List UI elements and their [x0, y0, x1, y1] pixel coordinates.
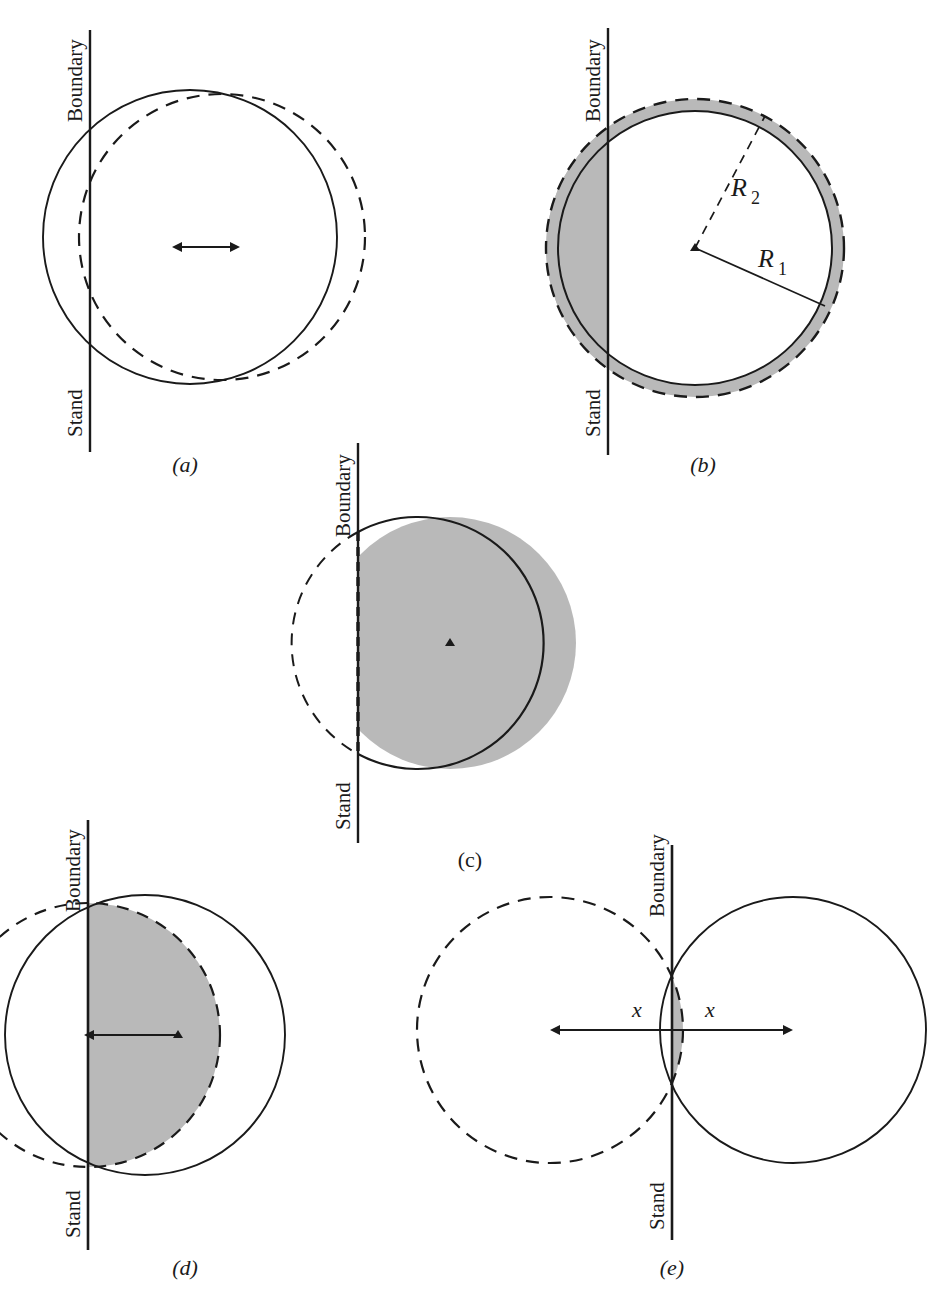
boundary-label-b: Boundary	[581, 39, 605, 122]
panel-caption-e: (e)	[592, 1255, 752, 1281]
stand-label-e: Stand	[645, 1182, 669, 1230]
stand-label-a: Stand	[63, 389, 87, 437]
arrowhead-left-icon	[172, 242, 182, 252]
boundary-label-d: Boundary	[61, 829, 85, 912]
radius-r2-label-b: R	[730, 173, 747, 202]
panel-e-svg: x x Boundary Stand	[400, 845, 947, 1308]
stand-label-d: Stand	[61, 1190, 85, 1238]
distance-label-right-e: x	[704, 997, 715, 1022]
radius-r1-subscript-b: 1	[778, 259, 787, 279]
figure-root: Boundary Stand (a)	[0, 0, 947, 1308]
lens-shaded-region-d	[0, 790, 400, 1308]
panel-d: Boundary Stand (d)	[0, 790, 400, 1308]
solid-circle-a	[43, 90, 337, 384]
arrowhead-right-icon	[230, 242, 240, 252]
radius-r2-subscript-b: 2	[751, 188, 760, 208]
dashed-circle-a	[79, 94, 365, 380]
boundary-label-e: Boundary	[645, 834, 669, 917]
panel-d-svg: Boundary Stand	[0, 790, 400, 1308]
boundary-label-c: Boundary	[331, 454, 355, 537]
distance-label-left-e: x	[631, 997, 642, 1022]
boundary-label-a: Boundary	[63, 39, 87, 122]
panel-e: x x Boundary Stand (e)	[400, 845, 947, 1308]
radius-r1-label-b: R	[757, 244, 774, 273]
panel-caption-d: (d)	[105, 1255, 265, 1281]
